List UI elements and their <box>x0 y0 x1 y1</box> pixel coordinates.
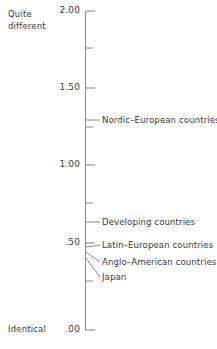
tick-label-0-00: .00 <box>44 324 80 334</box>
axis-group <box>86 11 96 330</box>
scale-endpoint-top-line2: different <box>8 21 46 33</box>
data-label-nordic-european: Nordic–European countries <box>102 115 217 125</box>
data-label-japan: Japan <box>102 272 126 282</box>
tick-label-2-00: 2.00 <box>44 5 80 15</box>
chart-canvas <box>0 0 217 349</box>
data-label-developing: Developing countries <box>102 217 195 227</box>
tick-label-1-00: 1.00 <box>44 159 80 169</box>
data-label-latin-european: Latin–European countries <box>102 240 213 250</box>
scale-endpoint-bottom: Identical <box>8 324 46 336</box>
vertical-scale-chart: Quite different Identical 2.00 1.50 1.00… <box>0 0 217 349</box>
data-label-anglo-american: Anglo–American countries <box>102 257 216 267</box>
scale-endpoint-top-line1: Quite <box>8 9 46 21</box>
leader-line-latin <box>86 245 100 247</box>
leader-line-group <box>86 120 101 277</box>
scale-endpoint-top: Quite different <box>8 9 46 32</box>
tick-label-1-50: 1.50 <box>44 82 80 92</box>
tick-label-0-50: .50 <box>44 237 80 247</box>
